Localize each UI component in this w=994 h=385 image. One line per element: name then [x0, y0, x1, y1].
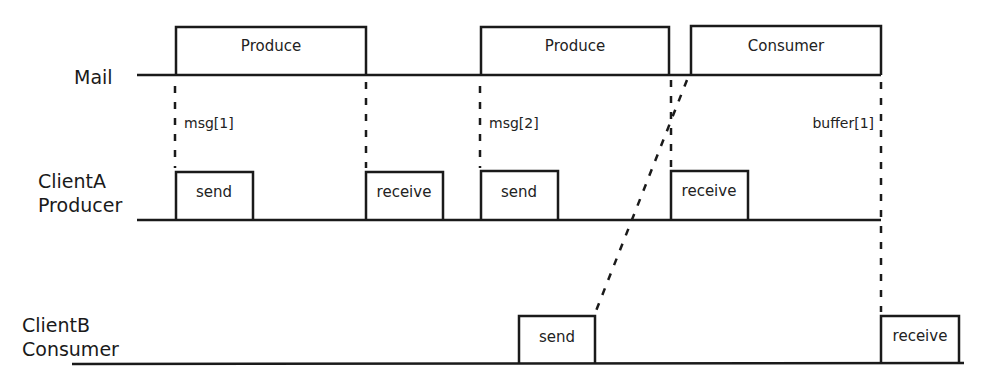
clienta-box-receive-2: receive: [671, 171, 748, 220]
svg-text:receive: receive: [893, 327, 948, 345]
svg-text:send: send: [501, 183, 537, 201]
mail-box-produce-1: Produce: [176, 27, 366, 75]
annotation-buffer1: buffer[1]: [812, 115, 874, 131]
svg-text:send: send: [539, 328, 575, 346]
svg-text:receive: receive: [682, 182, 737, 200]
clienta-box-send-1: send: [176, 172, 253, 220]
svg-text:send: send: [196, 183, 232, 201]
lane-label-clienta-line1: ClientA: [38, 170, 106, 192]
dashed-connector-diagonal: [596, 80, 687, 311]
svg-text:Produce: Produce: [241, 37, 301, 55]
clienta-box-send-2: send: [481, 171, 558, 220]
svg-text:Consumer: Consumer: [748, 37, 825, 55]
svg-text:Produce: Produce: [545, 37, 605, 55]
clientb-box-receive: receive: [881, 316, 959, 364]
lane-label-clienta-line2: Producer: [38, 194, 122, 216]
annotation-msg1: msg[1]: [184, 115, 234, 131]
svg-text:receive: receive: [377, 183, 432, 201]
lane-label-clientb-line2: Consumer: [22, 338, 119, 360]
mail-box-consumer: Consumer: [691, 26, 881, 75]
mail-box-produce-2: Produce: [481, 27, 669, 75]
lane-label-mail: Mail: [74, 66, 113, 88]
annotation-msg2: msg[2]: [489, 115, 539, 131]
timing-diagram: Mail ClientA Producer ClientB Consumer P…: [0, 0, 994, 385]
clientb-box-send: send: [519, 316, 595, 364]
lane-label-clientb-line1: ClientB: [22, 314, 90, 336]
clienta-box-receive-1: receive: [366, 172, 443, 220]
